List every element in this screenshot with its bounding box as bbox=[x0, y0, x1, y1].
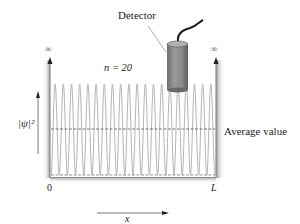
x-axis-label: x bbox=[125, 214, 129, 224]
probability-density-curve bbox=[51, 84, 215, 175]
particle-in-box-diagram: Detector n = 20 Average value |ψ|² x 0 L… bbox=[0, 0, 300, 224]
infinity-right-icon: ∞ bbox=[211, 45, 217, 54]
x-axis-arrow bbox=[97, 211, 169, 215]
average-value-label: Average value bbox=[224, 126, 287, 137]
origin-label: 0 bbox=[47, 183, 52, 193]
detector-label: Detector bbox=[118, 10, 156, 21]
right-wall bbox=[214, 57, 227, 178]
infinity-left-icon: ∞ bbox=[45, 45, 51, 54]
box-floor bbox=[50, 177, 216, 183]
detector-leader-line bbox=[148, 26, 166, 52]
y-axis-label: |ψ|² bbox=[18, 118, 34, 129]
left-wall bbox=[42, 57, 53, 178]
y-axis-arrow bbox=[36, 91, 40, 154]
diagram-canvas bbox=[0, 0, 300, 224]
length-label: L bbox=[211, 183, 217, 193]
detector-cable bbox=[178, 20, 203, 42]
quantum-number-label: n = 20 bbox=[104, 63, 132, 74]
detector bbox=[148, 20, 203, 93]
quantum-number-text: n = 20 bbox=[104, 62, 132, 73]
